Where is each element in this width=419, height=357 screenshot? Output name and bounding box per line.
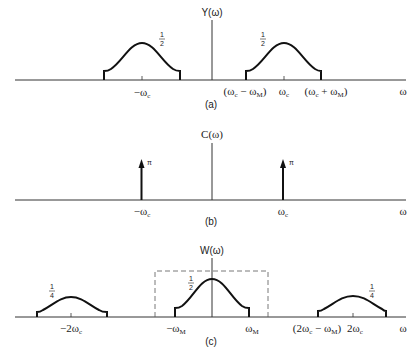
height-label-quarter-right: 1 4 <box>369 283 375 299</box>
label-neg-wc: −ωc <box>134 86 151 100</box>
svg-text:1: 1 <box>160 31 164 38</box>
label-2wc: 2ωc <box>347 322 363 336</box>
ylabel-a: Y(ω) <box>201 7 222 18</box>
height-label-half-center: 1 2 <box>188 275 194 291</box>
svg-text:2: 2 <box>189 284 193 291</box>
height-label-half-right: 1 2 <box>260 31 266 47</box>
svg-text:4: 4 <box>50 292 54 299</box>
label-neg-wc-b: −ωc <box>134 205 151 219</box>
xlabel-c: ω <box>399 322 406 334</box>
label-wc-plus-wm: (ωc + ωM) <box>305 85 348 99</box>
svg-text:1: 1 <box>50 283 54 290</box>
label-neg-wm: −ωM <box>166 322 186 336</box>
impulse-weight-neg-wc: π <box>147 159 152 166</box>
svg-text:1: 1 <box>261 31 265 38</box>
ylabel-c: W(ω) <box>200 245 224 256</box>
arrow-up-icon <box>280 159 286 168</box>
arrow-up-icon <box>139 159 145 168</box>
svg-text:4: 4 <box>370 292 374 299</box>
panel-a: Y(ω) 1 2 1 2 −ωc (ωc − ωM) ωc (ωc + ωM) … <box>15 7 407 110</box>
label-wc: ωc <box>279 85 289 99</box>
xlabel-b: ω <box>399 205 406 217</box>
label-neg-2wc: −2ωc <box>60 322 82 336</box>
xlabel-a: ω <box>399 85 406 97</box>
label-wc-minus-wm: (ωc − ωM) <box>224 85 267 99</box>
spectrum-hump-2wc <box>318 296 386 317</box>
label-wc-b: ωc <box>278 205 288 219</box>
label-2wc-minus-wm: (2ωc − ωM) <box>293 322 342 336</box>
label-wm: ωM <box>245 322 259 336</box>
caption-c: (c) <box>205 336 217 347</box>
impulse-weight-wc: π <box>289 159 294 166</box>
spectrum-hump-neg-wc <box>104 43 180 80</box>
caption-a: (a) <box>205 99 217 110</box>
svg-text:1: 1 <box>370 283 374 290</box>
height-label-quarter-left: 1 4 <box>49 283 55 299</box>
panel-c: W(ω) 1 4 1 2 1 4 −2ωc −ωM ωM (2ωc <box>15 245 407 347</box>
svg-text:2: 2 <box>261 40 265 47</box>
svg-text:2: 2 <box>160 40 164 47</box>
figure: Y(ω) 1 2 1 2 −ωc (ωc − ωM) ωc (ωc + ωM) … <box>0 0 419 357</box>
panel-b: C(ω) π π −ωc ωc ω (b) <box>15 128 407 227</box>
svg-text:1: 1 <box>189 275 193 282</box>
height-label-half-left: 1 2 <box>159 31 165 47</box>
ylabel-b: C(ω) <box>201 128 223 141</box>
spectrum-hump-wc <box>246 43 321 80</box>
caption-b: (b) <box>205 216 217 227</box>
spectrum-hump-neg-2wc <box>37 297 107 317</box>
